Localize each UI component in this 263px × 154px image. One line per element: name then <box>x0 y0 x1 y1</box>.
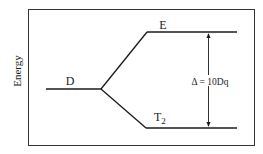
crystal-field-splitting-diagram: Energy D E T2 Δ = 10Dq <box>0 0 263 154</box>
arrow-up-icon <box>207 33 211 38</box>
split-line-down <box>101 89 146 128</box>
level-d-label: D <box>66 74 75 88</box>
y-axis-label: Energy <box>11 55 23 87</box>
level-t2-label: T2 <box>154 110 166 126</box>
level-e-label: E <box>159 18 166 32</box>
gap-label: Δ = 10Dq <box>192 77 229 87</box>
arrow-down-icon <box>207 122 211 127</box>
split-line-up <box>101 32 147 89</box>
